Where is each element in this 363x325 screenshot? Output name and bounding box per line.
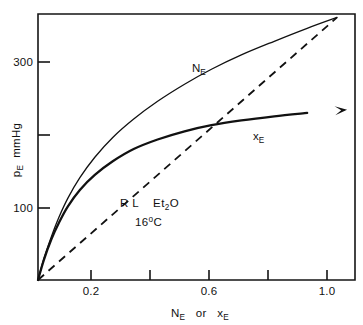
chart-svg: 300 100 0.2 0.6 1.0 pE mmHg NE or xE NE [0,0,363,325]
curve-label-xE: xE [253,130,265,145]
x-tick-label-0-2: 0.2 [83,285,100,297]
annotation-sample: R L Et2O [120,197,179,212]
curve-label-NE-sub: E [200,68,206,77]
data-curves [38,17,347,280]
chart-figure: 300 100 0.2 0.6 1.0 pE mmHg NE or xE NE [0,0,363,325]
x-axis-title-n: N [171,307,180,319]
x-axis-title-connector: or [196,307,207,319]
x-axis-title: NE or xE [171,307,229,322]
axis-frame-path [38,14,355,280]
annotation-sample-et: Et [153,197,165,209]
curve-xE-arrow-icon [335,106,347,115]
x-axis-title-x-sub: E [223,313,229,322]
plot-frame [38,14,355,280]
y-axis-ticks [38,62,50,208]
annotation-temperature-unit: C [154,216,163,228]
x-axis-ticks [91,270,327,280]
y-tick-label-100: 100 [13,202,33,214]
curve-label-NE-base: N [192,62,200,74]
curve-label-xE-sub: E [259,136,265,145]
x-tick-label-1-0: 1.0 [319,285,336,297]
y-axis-title: pE mmHg [10,123,25,178]
annotation-temperature-value: 16 [135,216,149,228]
annotation-temperature: 16oC [135,215,162,228]
x-tick-label-0-6: 0.6 [201,285,218,297]
y-axis-title-unit: mmHg [10,123,22,158]
y-tick-label-300: 300 [13,56,33,68]
svg-text:pE mmHg: pE mmHg [10,123,25,178]
y-axis-title-base: p [10,171,22,178]
raoult-ideal-line [38,17,337,280]
curve-label-NE: NE [192,62,206,77]
annotation-sample-rl: R L [120,197,139,209]
annotation-sample-o: O [170,197,179,209]
